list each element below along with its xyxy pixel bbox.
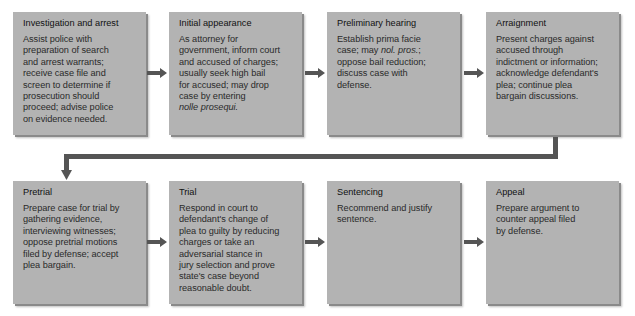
step-description: Respond in court to defendant's change o…	[179, 203, 294, 294]
desc-line: Present charges against	[496, 34, 611, 45]
desc-line: preparation of search	[23, 45, 138, 56]
desc-line: discuss case with	[337, 68, 452, 79]
desc-line: reasonable doubt.	[179, 283, 294, 294]
step-title: Sentencing	[337, 187, 452, 198]
step-title: Initial appearance	[179, 18, 294, 29]
desc-line: by defense.	[496, 226, 611, 237]
desc-line: on evidence needed.	[23, 114, 138, 125]
desc-line-italic: nolle prosequi.	[179, 102, 238, 112]
desc-line: defense.	[337, 80, 452, 91]
connector-line	[64, 154, 558, 159]
step-description: Establish prima facie case; may nol. pro…	[337, 34, 452, 91]
desc-line: plea to guilty by reducing	[179, 226, 294, 237]
desc-line: for accused; may drop	[179, 80, 294, 91]
arrow-down-icon	[61, 170, 72, 180]
arrow-right-icon	[464, 68, 484, 78]
step-sentencing: Sentencing Recommend and justify sentenc…	[327, 181, 460, 304]
step-title: Investigation and arrest	[23, 18, 138, 29]
desc-line: As attorney for	[179, 34, 294, 45]
step-appeal: Appeal Prepare argument to counter appea…	[486, 181, 619, 304]
step-description: Present charges against accused through …	[496, 34, 611, 102]
step-title: Pretrial	[23, 187, 138, 198]
step-pretrial: Pretrial Prepare case for trial by gathe…	[13, 181, 146, 304]
arrow-right-icon	[147, 237, 167, 247]
arrow-right-icon	[305, 237, 325, 247]
desc-line: Assist police with	[23, 34, 138, 45]
step-investigation-and-arrest: Investigation and arrest Assist police w…	[13, 12, 146, 135]
step-title: Appeal	[496, 187, 611, 198]
desc-line: acknowledge defendant's	[496, 68, 611, 79]
desc-line: screen to determine if	[23, 80, 138, 91]
desc-line: sentence.	[337, 214, 452, 225]
step-description: Assist police with preparation of search…	[23, 34, 138, 125]
step-trial: Trial Respond in court to defendant's ch…	[169, 181, 302, 304]
desc-line: case; may nol. pros.;	[337, 45, 452, 56]
step-title: Trial	[179, 187, 294, 198]
desc-line: indictment or information;	[496, 57, 611, 68]
desc-line: government, inform court	[179, 45, 294, 56]
desc-line: Respond in court to	[179, 203, 294, 214]
desc-line: receive case file and	[23, 68, 138, 79]
desc-line: usually seek high bail	[179, 68, 294, 79]
desc-line: case by entering	[179, 91, 294, 102]
desc-line: gathering evidence,	[23, 214, 138, 225]
desc-line: counter appeal filed	[496, 214, 611, 225]
desc-line: Recommend and justify	[337, 203, 452, 214]
step-description: Prepare case for trial by gathering evid…	[23, 203, 138, 271]
step-initial-appearance: Initial appearance As attorney for gover…	[169, 12, 302, 135]
step-description: As attorney for government, inform court…	[179, 34, 294, 114]
desc-line: charges or take an	[179, 237, 294, 248]
desc-line: accused through	[496, 45, 611, 56]
desc-line: bargain discussions.	[496, 91, 611, 102]
desc-line: Prepare case for trial by	[23, 203, 138, 214]
desc-line: defendant's change of	[179, 214, 294, 225]
step-preliminary-hearing: Preliminary hearing Establish prima faci…	[327, 12, 460, 135]
desc-line: adversarial stance in	[179, 249, 294, 260]
arrow-right-icon	[464, 237, 484, 247]
desc-line: state's case beyond	[179, 271, 294, 282]
step-title: Arraignment	[496, 18, 611, 29]
arrow-right-icon	[305, 68, 325, 78]
step-description: Recommend and justify sentence.	[337, 203, 452, 226]
desc-line: prosecution should	[23, 91, 138, 102]
desc-line: oppose bail reduction;	[337, 57, 452, 68]
desc-text-italic: nol. pros.	[381, 45, 418, 55]
desc-line: Establish prima facie	[337, 34, 452, 45]
desc-line: proceed; advise police	[23, 102, 138, 113]
desc-line: filed by defense; accept	[23, 249, 138, 260]
desc-line: Prepare argument to	[496, 203, 611, 214]
arrow-right-icon	[147, 68, 167, 78]
desc-line: plea bargain.	[23, 260, 138, 271]
desc-line: plea; continue plea	[496, 80, 611, 91]
desc-text: case; may	[337, 45, 381, 55]
step-title: Preliminary hearing	[337, 18, 452, 29]
desc-line: and arrest warrants;	[23, 57, 138, 68]
desc-line: and accused of charges;	[179, 57, 294, 68]
step-description: Prepare argument to counter appeal filed…	[496, 203, 611, 237]
desc-line: oppose pretrial motions	[23, 237, 138, 248]
step-arraignment: Arraignment Present charges against accu…	[486, 12, 619, 135]
desc-text: ;	[418, 45, 421, 55]
desc-line: interviewing witnesses;	[23, 226, 138, 237]
desc-line: jury selection and prove	[179, 260, 294, 271]
